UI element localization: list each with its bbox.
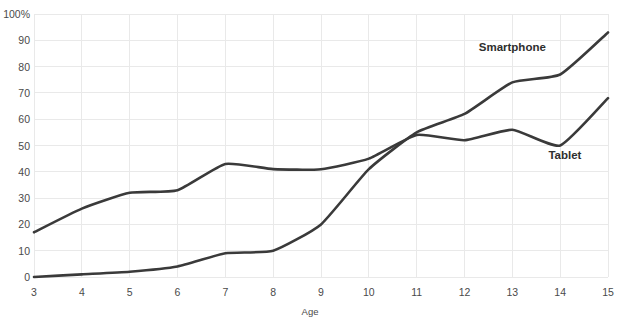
ytick-label-20: 20 <box>18 218 30 230</box>
ytick-label-40: 40 <box>18 166 30 178</box>
ytick-label-80: 80 <box>18 61 30 73</box>
xtick-label-12: 12 <box>459 286 471 298</box>
xtick-label-11: 11 <box>411 286 422 298</box>
series-label-smartphone: Smartphone <box>479 41 546 53</box>
ytick-label-10: 10 <box>18 245 30 257</box>
xtick-label-15: 15 <box>602 286 614 298</box>
ytick-label-0: 0 <box>24 271 30 283</box>
ytick-label-70: 70 <box>18 87 30 99</box>
ytick-label-60: 60 <box>18 113 30 125</box>
ytick-label-90: 90 <box>18 34 30 46</box>
xtick-label-7: 7 <box>222 286 228 298</box>
x-axis-title: Age <box>302 306 319 317</box>
xtick-label-3: 3 <box>31 286 37 298</box>
series-label-tablet: Tablet <box>548 149 581 161</box>
ytick-label-50: 50 <box>18 140 30 152</box>
y-axis-tick-labels: 100% 90 80 70 60 50 40 30 20 10 0 <box>3 8 30 283</box>
ytick-label-100: 100% <box>3 8 30 20</box>
chart-container: 100% 90 80 70 60 50 40 30 20 10 0 3 4 5 … <box>0 0 621 321</box>
xtick-label-13: 13 <box>506 286 518 298</box>
xtick-label-9: 9 <box>318 286 324 298</box>
xtick-label-10: 10 <box>363 286 375 298</box>
xtick-label-8: 8 <box>270 286 276 298</box>
x-axis-tick-labels: 3 4 5 6 7 8 9 10 11 12 13 14 15 <box>31 286 614 298</box>
xtick-label-5: 5 <box>127 286 133 298</box>
xtick-label-6: 6 <box>175 286 181 298</box>
xtick-label-4: 4 <box>79 286 85 298</box>
xtick-label-14: 14 <box>554 286 566 298</box>
line-chart: 100% 90 80 70 60 50 40 30 20 10 0 3 4 5 … <box>0 0 621 321</box>
ytick-label-30: 30 <box>18 192 30 204</box>
